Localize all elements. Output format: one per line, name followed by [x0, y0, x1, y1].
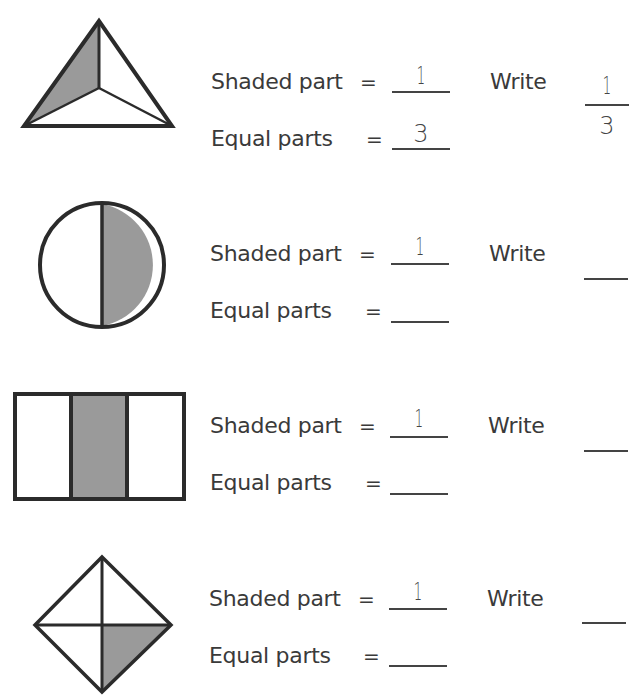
- fraction-bar: [582, 622, 626, 624]
- equals-sign: =: [360, 69, 377, 95]
- equal-parts-label: Equal parts: [209, 643, 331, 669]
- equals-sign: =: [365, 470, 382, 496]
- equal-parts-answer-line: [392, 148, 450, 150]
- equal-parts-label: Equal parts: [210, 470, 332, 496]
- write-label: Write: [489, 241, 546, 267]
- fraction-bar: [585, 104, 629, 106]
- equal-parts-label: Equal parts: [211, 126, 333, 152]
- triangle-thirds-figure: [0, 0, 200, 150]
- shaded-part-label: Shaded part: [210, 241, 342, 267]
- shaded-answer-line: [390, 436, 448, 438]
- diamond-quarters-figure: [0, 548, 200, 698]
- equal-parts-answer-line: [389, 665, 447, 667]
- shaded-answer-line: [391, 263, 449, 265]
- shaded-answer[interactable]: 1: [404, 234, 436, 260]
- shaded-answer[interactable]: 1: [402, 579, 434, 605]
- fraction-bar: [584, 450, 628, 452]
- shaded-answer-line: [392, 91, 450, 93]
- fraction-bar: [584, 278, 628, 280]
- equals-sign: =: [359, 241, 376, 267]
- equals-sign: =: [365, 298, 382, 324]
- equals-sign: =: [358, 586, 375, 612]
- shaded-answer[interactable]: 1: [405, 63, 437, 89]
- circle-halves-figure: [0, 195, 200, 335]
- equals-sign: =: [366, 126, 383, 152]
- equal-parts-answer-line: [391, 321, 449, 323]
- equal-parts-answer-line: [390, 493, 448, 495]
- write-label: Write: [490, 69, 547, 95]
- shaded-answer-line: [389, 608, 447, 610]
- fraction-numerator[interactable]: 1: [595, 73, 619, 99]
- shaded-answer[interactable]: 1: [403, 406, 435, 432]
- shaded-part-label: Shaded part: [209, 586, 341, 612]
- fraction-denominator[interactable]: 3: [585, 113, 629, 139]
- equals-sign: =: [359, 413, 376, 439]
- shaded-part-label: Shaded part: [210, 413, 342, 439]
- equal-parts-label: Equal parts: [210, 298, 332, 324]
- write-label: Write: [487, 586, 544, 612]
- equal-parts-answer[interactable]: 3: [392, 121, 450, 147]
- equals-sign: =: [363, 643, 380, 669]
- write-label: Write: [488, 413, 545, 439]
- shaded-part-label: Shaded part: [211, 69, 343, 95]
- rectangle-thirds-figure: [0, 385, 200, 510]
